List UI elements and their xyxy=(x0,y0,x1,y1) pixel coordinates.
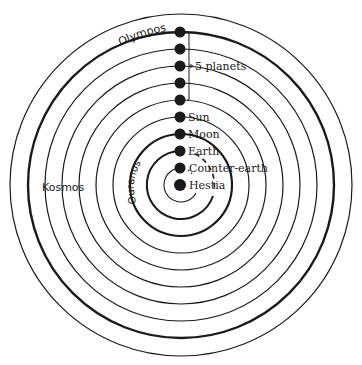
moon-dot xyxy=(175,129,186,140)
hestia-dot xyxy=(174,179,186,191)
counter-earth-label: Counter-earth xyxy=(189,162,268,175)
moon-label: Moon xyxy=(188,128,220,141)
diagram-canvas: Olympos 5 planets Sun Moon Earth Counter… xyxy=(0,0,362,365)
kosmos-label: Kosmos xyxy=(42,181,85,194)
planet-dot-2 xyxy=(175,61,186,72)
cosmos-diagram: Olympos 5 planets Sun Moon Earth Counter… xyxy=(0,0,362,365)
sun-dot xyxy=(175,112,186,123)
planet-dot-3 xyxy=(175,78,186,89)
sun-label: Sun xyxy=(188,111,210,124)
hestia-label: Hestia xyxy=(189,179,226,192)
earth-dot xyxy=(175,146,186,157)
celestial-bodies xyxy=(174,27,186,192)
ouranos-label: Ouranos xyxy=(125,158,143,205)
planet-dot-1 xyxy=(175,44,186,55)
planets-bracket-label: 5 planets xyxy=(195,60,247,73)
olympos-dot xyxy=(175,27,186,38)
earth-label: Earth xyxy=(188,145,219,158)
planet-dot-4 xyxy=(175,95,186,106)
olympos-label: Olympos xyxy=(116,21,167,48)
counter-earth-dot xyxy=(175,163,186,174)
